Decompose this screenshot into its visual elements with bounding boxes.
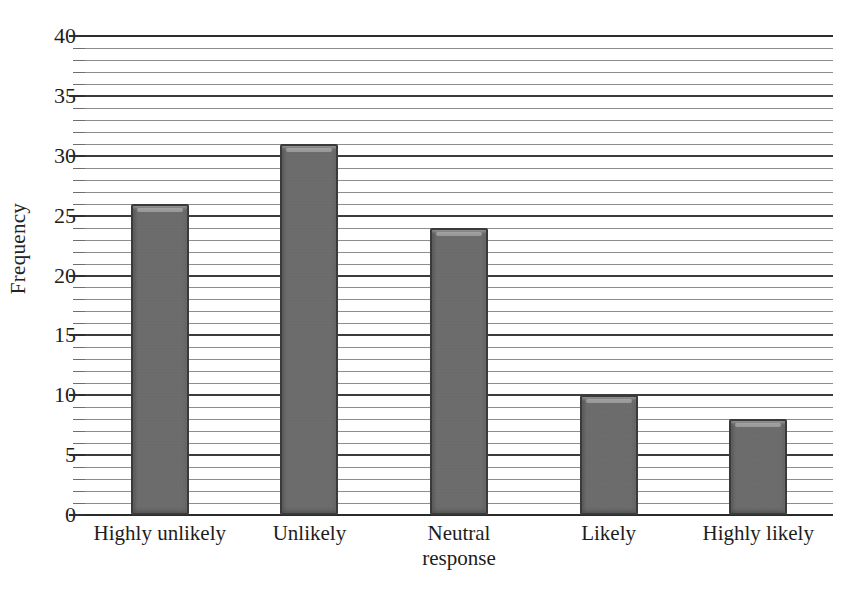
x-axis-tick-label-line: Unlikely [273,521,347,545]
y-axis-minor-tick [73,180,85,181]
y-axis-minor-tick [73,132,85,133]
plot-area: Highly unlikelyUnlikelyNeutralresponseLi… [85,0,833,593]
x-axis-tick-label: Highly unlikely [85,521,235,546]
y-axis-minor-tick [73,419,85,420]
y-axis-minor-tick [73,144,85,145]
bar [280,144,338,515]
y-axis-minor-tick [73,299,85,300]
minor-gridline [85,60,833,61]
minor-gridline [85,48,833,49]
y-axis-major-tick [69,95,85,97]
y-axis-tick-labels: 4035302520151050 [36,0,76,593]
y-axis-minor-tick [73,407,85,408]
y-axis-minor-tick [73,371,85,372]
y-axis-minor-tick [73,347,85,348]
x-axis-tick-label-line: response [384,546,534,571]
y-axis-minor-tick [73,503,85,504]
bar-highlight [137,208,183,212]
y-axis-minor-tick [73,48,85,49]
y-axis-minor-tick [73,228,85,229]
y-axis-minor-tick [73,359,85,360]
y-axis-minor-tick [73,168,85,169]
x-axis-tick-label-line: Likely [581,521,636,545]
major-gridline [85,155,833,157]
x-axis-tick-label: Unlikely [235,521,385,546]
x-axis-tick-label-line: Neutral [427,521,490,545]
x-axis-tick-label-line: Highly likely [702,521,813,545]
x-axis-tick-label: Neutralresponse [384,521,534,571]
y-axis-major-tick [69,155,85,157]
bar-highlight [286,148,332,152]
y-axis-major-tick [69,275,85,277]
bar [580,395,638,515]
y-axis-major-tick [69,514,85,516]
y-axis-major-tick [69,334,85,336]
y-axis-minor-tick [73,240,85,241]
y-axis-minor-tick [73,311,85,312]
y-axis-major-tick [69,215,85,217]
y-axis-minor-tick [73,479,85,480]
minor-gridline [85,132,833,133]
bar [430,228,488,515]
major-gridline [85,95,833,97]
minor-gridline [85,180,833,181]
y-axis-minor-tick [73,491,85,492]
y-axis-minor-tick [73,431,85,432]
y-axis-minor-tick [73,84,85,85]
y-axis-minor-tick [73,108,85,109]
minor-gridline [85,120,833,121]
y-axis-minor-tick [73,60,85,61]
y-axis-minor-tick [73,252,85,253]
y-axis-minor-tick [73,192,85,193]
bar-highlight [586,399,632,403]
x-axis-tick-label-line: Highly unlikely [94,521,226,545]
x-axis-tick-label: Likely [534,521,684,546]
y-axis-minor-tick [73,323,85,324]
y-axis-minor-tick [73,383,85,384]
y-axis-minor-tick [73,72,85,73]
bar [131,204,189,515]
y-axis-minor-tick [73,264,85,265]
y-axis-minor-tick [73,467,85,468]
y-axis-major-tick [69,394,85,396]
y-axis-major-tick [69,454,85,456]
major-gridline [85,215,833,217]
minor-gridline [85,84,833,85]
minor-gridline [85,72,833,73]
y-axis-minor-tick [73,443,85,444]
minor-gridline [85,144,833,145]
x-axis-tick-label: Highly likely [683,521,833,546]
minor-gridline [85,168,833,169]
bar-chart-figure: Frequency 4035302520151050 Highly unlike… [0,0,856,593]
y-axis-title: Frequency [6,189,31,309]
y-axis-minor-tick [73,287,85,288]
bar-highlight [436,232,482,236]
minor-gridline [85,204,833,205]
minor-gridline [85,192,833,193]
bar-highlight [735,423,781,427]
y-axis-minor-tick [73,120,85,121]
bar [729,419,787,515]
y-axis-minor-tick [73,204,85,205]
minor-gridline [85,108,833,109]
y-axis-major-tick [69,35,85,37]
major-gridline [85,35,833,37]
